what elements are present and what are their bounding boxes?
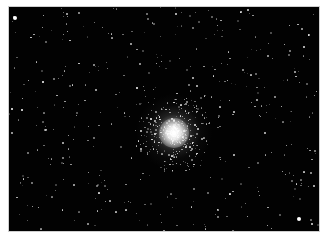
- star: [147, 18, 149, 20]
- star: [181, 12, 182, 13]
- star: [50, 164, 52, 166]
- star: [147, 224, 149, 226]
- star: [35, 91, 36, 92]
- star: [63, 16, 64, 17]
- star: [83, 26, 84, 27]
- star: [16, 57, 17, 58]
- star: [144, 90, 145, 91]
- star: [93, 146, 94, 147]
- star: [289, 25, 290, 26]
- star: [310, 219, 312, 221]
- star: [167, 196, 169, 198]
- star: [100, 112, 101, 113]
- star: [259, 195, 261, 197]
- star: [161, 61, 162, 62]
- star: [175, 122, 177, 124]
- star: [289, 50, 291, 52]
- star: [261, 105, 263, 107]
- star: [239, 29, 241, 31]
- star: [125, 184, 126, 185]
- star: [68, 135, 70, 137]
- star: [98, 125, 100, 127]
- star-field-image: [8, 6, 320, 232]
- star: [220, 100, 221, 101]
- star: [266, 112, 267, 113]
- star: [73, 184, 75, 186]
- star: [247, 216, 248, 217]
- star: [98, 70, 99, 71]
- star: [120, 146, 122, 148]
- star: [94, 225, 96, 227]
- star: [294, 188, 296, 190]
- star: [38, 207, 39, 208]
- star: [87, 223, 89, 225]
- star: [190, 150, 191, 151]
- star: [186, 145, 187, 146]
- star: [227, 80, 228, 81]
- star: [154, 98, 155, 99]
- star: [140, 130, 141, 131]
- star: [193, 224, 195, 226]
- star: [308, 186, 309, 187]
- star: [172, 161, 173, 162]
- star: [247, 57, 248, 58]
- star: [95, 198, 96, 199]
- star: [310, 172, 312, 174]
- star: [198, 21, 200, 23]
- star: [217, 209, 218, 210]
- star: [128, 201, 129, 202]
- star: [188, 123, 189, 124]
- star: [303, 46, 304, 47]
- star: [307, 148, 308, 149]
- star: [246, 86, 248, 88]
- star: [123, 75, 124, 76]
- star: [205, 38, 207, 40]
- star: [89, 72, 90, 73]
- star: [170, 193, 172, 195]
- star: [293, 196, 294, 197]
- star: [217, 216, 218, 217]
- star: [20, 183, 21, 184]
- star: [245, 203, 246, 204]
- star: [155, 87, 156, 88]
- star: [160, 132, 161, 133]
- star: [131, 157, 132, 158]
- star: [63, 34, 64, 35]
- star: [256, 50, 257, 51]
- star: [33, 34, 34, 35]
- star: [175, 198, 177, 200]
- star: [23, 84, 25, 86]
- star: [161, 153, 163, 155]
- star: [216, 18, 217, 19]
- star: [221, 178, 223, 180]
- star: [176, 225, 178, 227]
- star: [15, 32, 16, 33]
- star: [231, 83, 232, 84]
- star: [54, 104, 55, 105]
- star: [51, 30, 52, 31]
- star: [124, 202, 125, 203]
- star: [67, 31, 68, 32]
- star: [211, 96, 213, 98]
- star: [189, 139, 190, 140]
- star: [156, 54, 158, 56]
- star: [63, 163, 65, 165]
- star: [203, 138, 204, 139]
- star: [161, 142, 162, 143]
- star: [207, 192, 209, 194]
- star: [156, 63, 157, 64]
- star: [175, 7, 177, 9]
- star: [147, 152, 148, 153]
- star: [72, 84, 74, 86]
- star: [164, 170, 165, 171]
- star: [144, 204, 146, 206]
- star: [193, 201, 194, 202]
- star: [256, 99, 258, 101]
- star: [45, 126, 46, 127]
- star: [168, 154, 170, 156]
- star: [255, 36, 256, 37]
- star: [63, 179, 64, 180]
- star: [175, 139, 176, 140]
- star: [165, 68, 167, 70]
- star: [175, 34, 176, 35]
